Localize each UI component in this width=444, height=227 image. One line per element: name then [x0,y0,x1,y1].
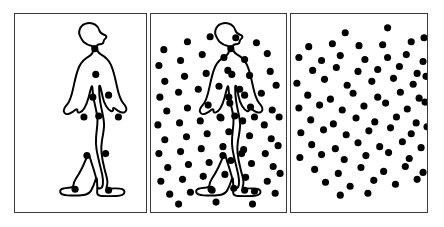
mask-dot [176,119,183,126]
mask-dot [297,129,304,136]
mask-dot [408,38,415,45]
mask-dot [161,136,168,143]
panel-walker-outline-canvas [15,14,146,212]
mask-dot [350,90,357,97]
mask-dot [261,121,268,128]
mask-dot [248,160,255,167]
joint-dot-shoulder-near [105,92,112,99]
mask-dot [376,143,383,150]
joint-dot-pelvis [95,112,102,119]
mask-dot [184,38,191,45]
mask-dot [304,92,311,99]
joint-dot-knee-near [102,150,109,157]
mask-dot [337,192,344,199]
mask-dot [384,24,391,31]
joint-dot-head [227,45,234,52]
mask-dot [268,135,275,142]
mask-dot [413,119,420,126]
panel-mask-only [290,13,428,213]
mask-dot [275,142,282,149]
mask-dot [403,51,410,58]
mask-dot [164,164,171,171]
mask-dot [406,155,413,162]
mask-dot [379,41,386,48]
mask-dot [155,62,162,69]
mask-dot [270,163,277,170]
mask-dot [308,141,315,148]
mask-dot [393,113,400,120]
mask-dot [219,143,226,150]
joint-dot-hand-near [251,113,258,120]
mask-dot [418,144,425,151]
mask-dot [225,128,232,135]
mask-dot [321,76,328,83]
mask-dot [371,118,378,125]
mask-dot [215,83,222,90]
mask-dot [420,58,427,65]
joint-dot-hand-far [80,113,87,120]
panel-mask-only-canvas [291,14,427,212]
mask-dot [166,191,173,198]
mask-dot [341,156,348,163]
mask-dot [335,170,342,177]
mask-dot-group [293,24,427,198]
mask-dot-group [154,33,283,207]
mask-dot [360,103,367,110]
mask-dot [384,54,391,61]
mask-dot [374,66,381,73]
mask-dot [311,166,318,173]
mask-dot [332,145,339,152]
mask-dot [357,164,364,171]
mask-dot [362,152,369,159]
mask-dot [354,68,361,75]
mask-dot [253,39,260,46]
mask-dot [354,139,361,146]
mask-dot [352,114,359,121]
mask-dot [200,173,207,180]
mask-dot [207,33,214,40]
mask-dot [267,68,274,75]
mask-dot [206,159,213,166]
mask-dot [347,183,354,190]
joint-dot-knee-far [83,152,90,159]
panel-walker-outline [14,13,147,213]
mask-dot [264,50,271,57]
mask-dot [404,105,411,112]
mask-dot [361,56,368,63]
mask-dot [339,106,346,113]
mask-dot [365,127,372,134]
mask-dot [382,100,389,107]
mask-dot [199,51,206,58]
biological-motion-figure [0,0,444,227]
mask-dot [390,75,397,82]
mask-dot [408,130,415,137]
mask-dot [184,104,191,111]
mask-dot [330,120,337,127]
joint-dot-shoulder-far [89,94,96,101]
mask-dot [402,163,409,170]
mask-dot [295,104,302,111]
mask-dot [327,96,334,103]
mask-dot [262,150,269,157]
mask-dot [333,64,340,71]
mask-dot [364,190,371,197]
mask-dot [161,78,168,85]
mask-dot [177,57,184,64]
joint-dot-foot-near [105,187,112,194]
mask-dot [205,102,212,109]
mask-dot [195,86,202,93]
mask-dot [232,34,239,41]
mask-dot [293,80,300,87]
mask-dot [246,132,253,139]
mask-dot [368,78,375,85]
joint-dot-neck-sternum [92,71,99,78]
mask-dot [221,171,228,178]
mask-dot [422,73,427,80]
mask-dot [183,133,190,140]
mask-dot [343,131,350,138]
mask-dot [277,170,284,177]
mask-dot [185,161,192,168]
mask-dot [414,176,421,183]
mask-dot [322,179,329,186]
mask-dot [320,126,327,133]
